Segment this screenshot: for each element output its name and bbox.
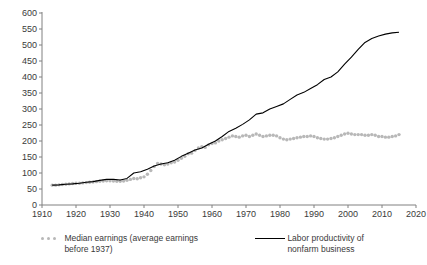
data-point <box>227 135 230 138</box>
data-point <box>231 134 234 137</box>
data-point <box>241 134 244 137</box>
data-point <box>248 135 251 138</box>
data-point <box>285 138 288 141</box>
data-point <box>302 135 305 138</box>
data-point <box>244 134 247 137</box>
data-point <box>272 134 275 137</box>
data-point <box>292 137 295 140</box>
data-point <box>377 135 380 138</box>
data-point <box>275 134 278 137</box>
data-point <box>394 134 397 137</box>
data-point <box>261 135 264 138</box>
data-point <box>251 134 254 137</box>
data-point <box>295 136 298 139</box>
legend-label-line2: nonfarm business <box>287 244 354 254</box>
data-point <box>360 133 363 136</box>
data-point <box>397 133 400 136</box>
solid-line-icon <box>255 233 285 243</box>
legend-item-labor-productivity: Labor productivity of nonfarm business <box>255 233 364 255</box>
plot-area <box>0 0 427 265</box>
data-point <box>380 135 383 138</box>
data-point <box>346 132 349 135</box>
data-point <box>129 178 132 181</box>
data-point <box>384 135 387 138</box>
data-point <box>367 134 370 137</box>
data-point <box>146 173 149 176</box>
legend-label-line2: before 1937) <box>64 244 112 254</box>
data-point <box>136 177 139 180</box>
series-markers-median-earnings <box>51 132 401 187</box>
data-point <box>142 175 145 178</box>
series-line-labor-productivity <box>52 32 399 185</box>
chart-container: Normalized to 1937 = 100 050100150200250… <box>0 0 427 265</box>
data-point <box>340 134 343 137</box>
data-point <box>306 135 309 138</box>
data-point <box>234 135 237 138</box>
data-point <box>333 136 336 139</box>
legend-label-line1: Labor productivity of <box>287 233 364 243</box>
data-point <box>326 137 329 140</box>
dotted-markers-icon <box>40 233 62 243</box>
data-point <box>323 137 326 140</box>
data-point <box>329 137 332 140</box>
data-point <box>374 134 377 137</box>
legend-label-line1: Median earnings (average earnings <box>64 233 198 243</box>
data-point <box>353 133 356 136</box>
data-point <box>309 134 312 137</box>
legend-item-median-earnings: Median earnings (average earnings before… <box>40 233 198 255</box>
data-point <box>343 132 346 135</box>
data-point <box>312 135 315 138</box>
data-point <box>299 135 302 138</box>
data-point <box>132 177 135 180</box>
data-point <box>319 137 322 140</box>
data-point <box>370 133 373 136</box>
data-point <box>221 138 224 141</box>
data-point <box>391 135 394 138</box>
data-point <box>350 132 353 135</box>
data-point <box>387 135 390 138</box>
data-point <box>363 134 366 137</box>
data-point <box>238 135 241 138</box>
data-point <box>255 132 258 135</box>
data-point <box>149 169 152 172</box>
data-point <box>265 134 268 137</box>
data-point <box>258 134 261 137</box>
legend-label-median-earnings: Median earnings (average earnings before… <box>64 233 198 255</box>
data-point <box>224 137 227 140</box>
data-point <box>336 135 339 138</box>
data-point <box>289 137 292 140</box>
data-point <box>357 133 360 136</box>
data-point <box>282 137 285 140</box>
data-point <box>268 134 271 137</box>
data-point <box>139 176 142 179</box>
data-point <box>278 136 281 139</box>
data-point <box>316 136 319 139</box>
legend-label-labor-productivity: Labor productivity of nonfarm business <box>287 233 364 255</box>
